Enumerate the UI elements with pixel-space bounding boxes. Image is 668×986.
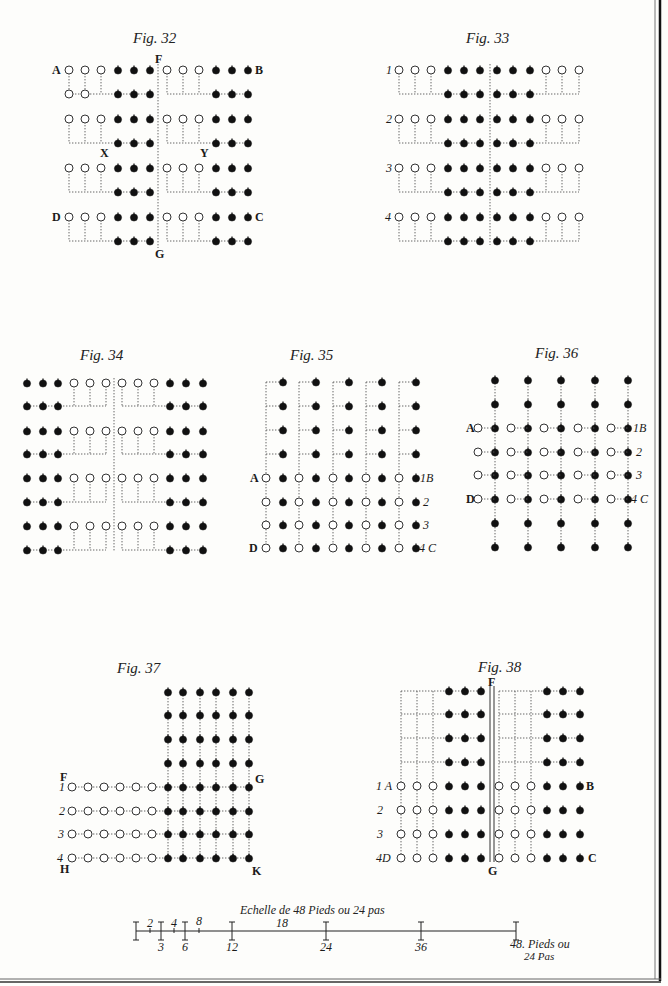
point-label: 3 [635,468,642,482]
soldier-open-circle-icon [150,474,158,482]
soldier-open-circle-icon [574,424,582,432]
point-label: K [252,864,262,878]
soldier-open-circle-icon [329,544,337,552]
soldier-open-circle-icon [295,474,303,482]
soldier-open-circle-icon [84,807,92,815]
point-label: 3 [57,827,64,841]
soldier-open-circle-icon [65,213,73,221]
figure-37: Fig. 37F1234HGK [57,660,264,878]
soldier-open-circle-icon [397,806,405,814]
soldier-open-circle-icon [148,854,156,862]
soldier-open-circle-icon [118,379,126,387]
figure-title: Fig. 37 [116,660,162,676]
soldier-open-circle-icon [116,807,124,815]
soldier-open-circle-icon [413,806,421,814]
soldier-open-circle-icon [84,854,92,862]
soldier-open-circle-icon [100,783,108,791]
soldier-open-circle-icon [362,474,370,482]
soldier-open-circle-icon [474,424,482,432]
soldier-open-circle-icon [118,427,126,435]
soldier-open-circle-icon [70,522,78,530]
soldier-open-circle-icon [495,830,503,838]
scale-tick-label: 2 [147,916,153,930]
point-label: 2 [423,495,429,509]
soldier-open-circle-icon [134,522,142,530]
soldier-open-circle-icon [97,115,105,123]
soldier-open-circle-icon [558,213,566,221]
figure-title: Fig. 35 [289,347,334,363]
soldier-open-circle-icon [148,807,156,815]
point-label: H [60,862,70,876]
soldier-open-circle-icon [429,782,437,790]
soldier-open-circle-icon [395,66,403,74]
point-label: 1 [59,780,65,794]
point-label: 3 [422,518,429,532]
soldier-open-circle-icon [84,783,92,791]
soldier-open-circle-icon [132,854,140,862]
soldier-open-circle-icon [150,522,158,530]
point-label: 4 [385,210,391,224]
soldier-open-circle-icon [542,66,550,74]
soldier-open-circle-icon [102,522,110,530]
soldier-open-circle-icon [362,498,370,506]
soldier-open-circle-icon [70,379,78,387]
soldier-open-circle-icon [413,782,421,790]
soldier-open-circle-icon [329,521,337,529]
soldier-open-circle-icon [195,115,203,123]
soldier-open-circle-icon [86,474,94,482]
soldier-open-circle-icon [540,424,548,432]
soldier-open-circle-icon [86,522,94,530]
soldier-open-circle-icon [474,448,482,456]
point-label: D [52,210,61,224]
soldier-open-circle-icon [132,807,140,815]
figure-title: Fig. 38 [477,659,522,675]
soldier-open-circle-icon [262,521,270,529]
soldier-open-circle-icon [507,448,515,456]
point-label: 3 [385,161,392,175]
scale-tick-label: 36 [414,940,427,954]
soldier-open-circle-icon [65,164,73,172]
soldier-open-circle-icon [68,830,76,838]
scale-tick-label: 4 [171,916,177,930]
point-label: B [586,779,594,793]
figure-35: Fig. 35A1B23D4 C [249,347,437,555]
point-label: G [488,864,497,878]
soldier-open-circle-icon [429,806,437,814]
scale-tick-label: 12 [226,940,238,954]
soldier-open-circle-icon [395,164,403,172]
soldier-open-circle-icon [179,66,187,74]
soldier-open-circle-icon [132,783,140,791]
soldier-open-circle-icon [362,544,370,552]
soldier-open-circle-icon [65,115,73,123]
point-label: 3 [376,827,383,841]
point-label: B [255,63,263,77]
point-label: Y [200,146,209,160]
soldier-open-circle-icon [65,66,73,74]
soldier-open-circle-icon [575,115,583,123]
soldier-open-circle-icon [511,854,519,862]
soldier-open-circle-icon [607,495,615,503]
figure-title: Fig. 33 [465,30,509,46]
soldier-open-circle-icon [295,498,303,506]
soldier-open-circle-icon [148,783,156,791]
figure-38: Fig. 38F1 AB234DCG [376,659,597,878]
soldier-open-circle-icon [527,806,535,814]
engraving-plate: Fig. 32ABFXYDCG Fig. 331234 Fig. 34 Fig.… [0,0,668,986]
soldier-open-circle-icon [607,448,615,456]
soldier-open-circle-icon [527,830,535,838]
scale-tick-label: 8 [196,914,202,928]
soldier-open-circle-icon [574,471,582,479]
soldier-open-circle-icon [163,164,171,172]
scale-bar: Echelle de 48 Pieds ou 24 pas 48. Pieds … [133,903,570,962]
soldier-open-circle-icon [195,66,203,74]
soldier-open-circle-icon [397,782,405,790]
point-label: 1B [633,421,647,435]
soldier-open-circle-icon [427,213,435,221]
soldier-open-circle-icon [68,854,76,862]
soldier-open-circle-icon [81,213,89,221]
soldier-open-circle-icon [474,471,482,479]
soldier-open-circle-icon [575,164,583,172]
soldier-open-circle-icon [150,427,158,435]
soldier-open-circle-icon [102,427,110,435]
soldier-open-circle-icon [397,854,405,862]
